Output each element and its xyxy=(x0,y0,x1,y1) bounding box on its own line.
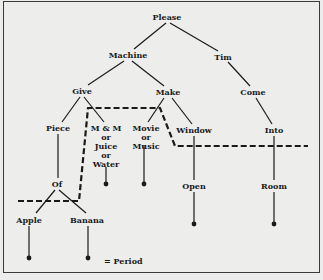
node-mm-group: M & M or Juice or Water xyxy=(91,124,122,169)
node-come: Come xyxy=(240,88,265,97)
node-into: Into xyxy=(265,126,284,135)
node-machine: Machine xyxy=(109,51,148,60)
node-mm-water: Water xyxy=(91,160,122,169)
node-room: Room xyxy=(261,182,287,191)
node-give: Give xyxy=(72,87,92,96)
node-banana: Banana xyxy=(70,216,104,225)
node-please: Please xyxy=(153,13,182,22)
node-movie-music: Music xyxy=(132,142,159,151)
node-movie-group: Movie or Music xyxy=(132,124,159,151)
node-tim: Tim xyxy=(214,53,231,62)
legend-period: = Period xyxy=(104,256,143,266)
node-of: Of xyxy=(52,180,62,189)
node-apple: Apple xyxy=(16,216,42,225)
node-piece: Piece xyxy=(46,124,70,133)
tree-lines xyxy=(0,0,323,280)
node-open: Open xyxy=(182,182,205,191)
node-window: Window xyxy=(176,126,212,135)
node-make: Make xyxy=(156,88,181,97)
